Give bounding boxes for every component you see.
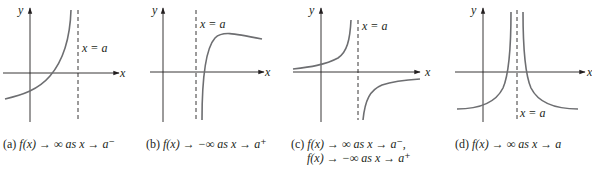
asymptote-label: x = a xyxy=(81,41,107,55)
caption-line: f(x) → ∞ as x → a xyxy=(472,137,561,151)
caption-a: (a) f(x) → ∞ as x → a⁻ xyxy=(3,138,115,151)
caption-d: (d) f(x) → ∞ as x → a xyxy=(455,138,561,151)
asymptote-label: x = a xyxy=(519,106,545,120)
x-axis-label: x xyxy=(119,66,126,80)
caption-c: (c) f(x) → ∞ as x → a⁻, f(x) → −∞ as x →… xyxy=(291,138,411,165)
function-curve-left xyxy=(457,12,511,109)
function-curve-right xyxy=(363,79,420,120)
x-axis-label: x xyxy=(586,65,592,79)
function-curve xyxy=(5,10,71,99)
function-curve-left xyxy=(293,20,351,69)
caption-prefix: (c) xyxy=(291,137,304,151)
caption-line: f(x) → −∞ as x → a⁺ xyxy=(163,137,267,151)
function-curve-right xyxy=(523,12,578,109)
y-axis-label: y xyxy=(470,3,477,17)
y-axis-label: y xyxy=(308,3,315,17)
panel-b: y x x = a xyxy=(150,3,271,122)
caption-prefix: (a) xyxy=(3,137,16,151)
caption-b: (b) f(x) → −∞ as x → a⁺ xyxy=(146,138,267,151)
panel-c: y x x = a xyxy=(293,3,431,122)
caption-line: f(x) → −∞ as x → a⁺ xyxy=(307,151,411,165)
y-axis-label: y xyxy=(151,3,158,17)
x-axis-label: x xyxy=(264,65,271,79)
asymptote-label: x = a xyxy=(361,19,387,33)
panel-d: y x x = a xyxy=(455,3,592,122)
caption-prefix: (b) xyxy=(146,137,160,151)
x-axis-label: x xyxy=(424,65,431,79)
y-axis-label: y xyxy=(17,3,24,17)
caption-prefix: (d) xyxy=(455,137,469,151)
asymptote-label: x = a xyxy=(199,17,225,31)
caption-line: f(x) → ∞ as x → a⁻ xyxy=(19,137,115,151)
function-curve xyxy=(202,34,262,120)
panel-a: y x x = a xyxy=(3,3,126,122)
caption-line: f(x) → ∞ as x → a⁻, xyxy=(307,137,406,151)
